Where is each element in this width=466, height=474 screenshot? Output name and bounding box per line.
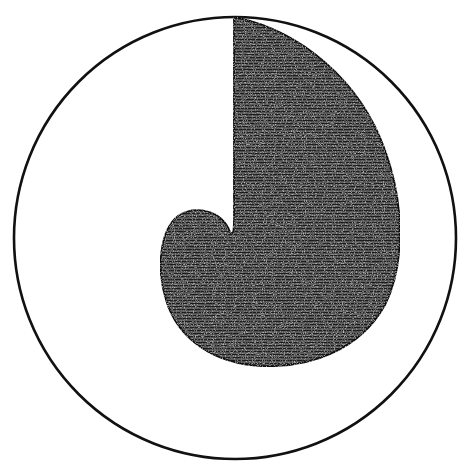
spiral-shape bbox=[161, 17, 400, 366]
figure bbox=[0, 0, 466, 474]
